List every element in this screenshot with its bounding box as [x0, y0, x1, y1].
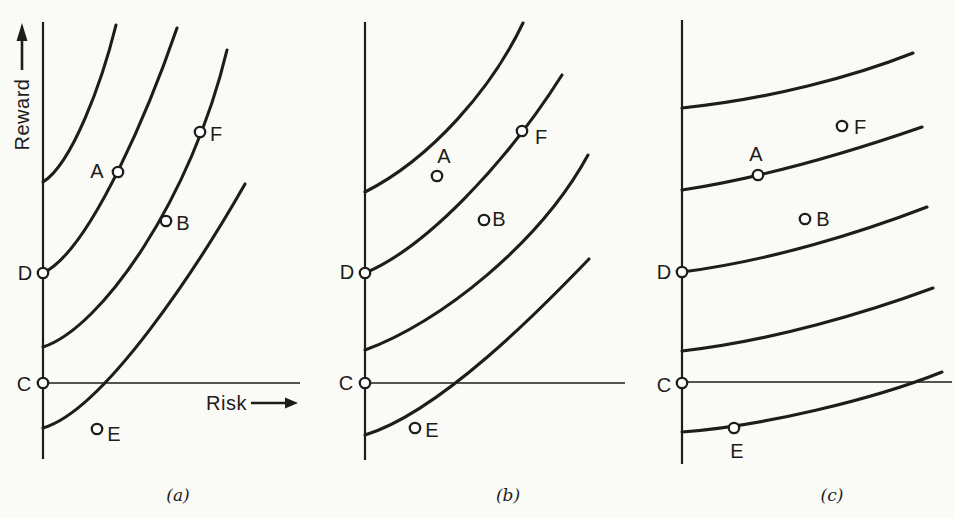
panel-a-point-E-label: E: [107, 423, 120, 445]
panel-c-point-E-label: E: [730, 440, 743, 462]
panel-c-point-E-marker: [729, 423, 739, 433]
risk-axis-label: Risk: [206, 392, 247, 415]
panel-c-point-C-marker: [677, 378, 687, 388]
panel-b-point-D-marker: [360, 268, 370, 278]
panel-b-point-F-marker: [517, 126, 527, 136]
panel-a-point-A-label: A: [90, 160, 104, 182]
panel-b-point-C-marker: [360, 378, 370, 388]
panel-a-point-F-label: F: [210, 123, 222, 145]
panel-c-point-B-label: B: [816, 208, 829, 230]
panel-c-point-A-marker: [753, 170, 763, 180]
panel-a-point-C-marker: [38, 378, 48, 388]
risk-axis-right-arrow-head: [285, 398, 298, 409]
panel-a-point-B-marker: [161, 216, 171, 226]
panel-a-point-B-label: B: [176, 212, 189, 234]
panel-a-indifference-curve-3: [43, 50, 227, 347]
panel-c-point-A-label: A: [749, 143, 763, 165]
panel-a-point-F-marker: [195, 127, 205, 137]
panel-b-point-E-marker: [410, 423, 420, 433]
panel-c-caption: (c): [812, 485, 852, 505]
panel-b-point-D-label: D: [340, 261, 354, 283]
panel-a-indifference-curve-2: [43, 28, 177, 273]
panel-c-point-F-marker: [837, 121, 847, 131]
panel-a-indifference-curve-1: [43, 25, 116, 182]
panel-c-indifference-curve-1: [682, 53, 913, 108]
panel-c-point-F-label: F: [854, 116, 866, 138]
panel-c-point-C-label: C: [657, 374, 671, 396]
panel-b-point-A-label: A: [437, 145, 451, 167]
panel-a-point-C-label: C: [17, 373, 31, 395]
panel-a-point-D-marker: [38, 268, 48, 278]
panel-b-point-F-label: F: [535, 126, 547, 148]
panel-b-point-A-marker: [432, 171, 442, 181]
panel-a-caption: (a): [158, 485, 198, 505]
panel-b-point-B-marker: [479, 215, 489, 225]
indifference-curves-figure: AFBDCEAFBDCEAFBDCE Reward Risk (a) (b) (…: [0, 0, 955, 518]
reward-axis-up-arrow-head: [17, 23, 28, 41]
panel-c-indifference-curve-5: [682, 372, 942, 432]
panel-b-point-B-label: B: [492, 208, 505, 230]
panel-b-indifference-curve-4: [365, 259, 589, 435]
panel-b-point-C-label: C: [339, 372, 353, 394]
panel-c-point-D-marker: [677, 267, 687, 277]
panel-c-point-B-marker: [800, 214, 810, 224]
panel-c-indifference-curve-2: [682, 127, 922, 190]
panel-a-point-A-marker: [113, 167, 123, 177]
reward-axis-label: Reward: [11, 76, 34, 154]
panel-a-point-E-marker: [92, 424, 102, 434]
panel-b-caption: (b): [488, 485, 528, 505]
panel-a-point-D-label: D: [18, 262, 32, 284]
figure-canvas: AFBDCEAFBDCEAFBDCE: [0, 0, 955, 518]
panel-b-point-E-label: E: [425, 419, 438, 441]
panel-c-point-D-label: D: [657, 261, 671, 283]
panel-c-indifference-curve-4: [682, 288, 933, 351]
